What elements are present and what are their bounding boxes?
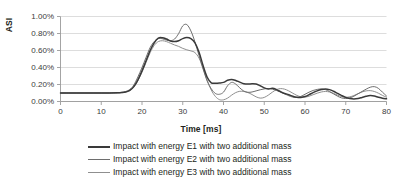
y-tick-label: 0.60%: [14, 46, 54, 55]
legend-line-swatch: [88, 146, 110, 148]
x-tick-label: 50: [249, 107, 279, 116]
legend-item-1[interactable]: Impact with energy E1 with two additiona…: [0, 140, 402, 153]
legend-label: Impact with energy E3 with two additiona…: [113, 167, 292, 178]
y-tick-label: 1.00%: [14, 12, 54, 21]
x-tick-label: 0: [46, 107, 76, 116]
series-line-1: [61, 38, 387, 99]
x-tick-label: 80: [372, 107, 402, 116]
legend-item-3[interactable]: Impact with energy E3 with two additiona…: [0, 166, 402, 179]
x-tick-marks: [61, 102, 387, 106]
legend-label: Impact with energy E2 with two additiona…: [113, 154, 292, 165]
x-tick-label: 30: [168, 107, 198, 116]
chart-legend: Impact with energy E1 with two additiona…: [0, 140, 402, 179]
x-tick-label: 10: [86, 107, 116, 116]
x-tick-label: 40: [209, 107, 239, 116]
series-line-2: [61, 24, 387, 98]
series-line-3: [61, 41, 387, 100]
legend-label: Impact with energy E1 with two additiona…: [113, 141, 292, 152]
y-axis-title: ASI: [4, 5, 14, 45]
gridlines: [61, 17, 387, 102]
x-tick-label: 20: [127, 107, 157, 116]
legend-item-2[interactable]: Impact with energy E2 with two additiona…: [0, 153, 402, 166]
legend-line-swatch: [88, 172, 110, 173]
y-tick-label: 0.40%: [14, 63, 54, 72]
data-series-group: [61, 24, 387, 100]
y-tick-label: 0.20%: [14, 80, 54, 89]
y-tick-label: 0.80%: [14, 29, 54, 38]
asi-time-line-chart: ASI Time [ms] 0.00%0.20%0.40%0.60%0.80%1…: [0, 0, 402, 187]
y-tick-marks: [57, 17, 61, 102]
y-tick-label: 0.00%: [14, 97, 54, 106]
x-tick-label: 70: [331, 107, 361, 116]
axis-lines: [61, 17, 387, 102]
x-tick-label: 60: [290, 107, 320, 116]
legend-line-swatch: [88, 159, 110, 160]
x-axis-title: Time [ms]: [0, 124, 402, 134]
